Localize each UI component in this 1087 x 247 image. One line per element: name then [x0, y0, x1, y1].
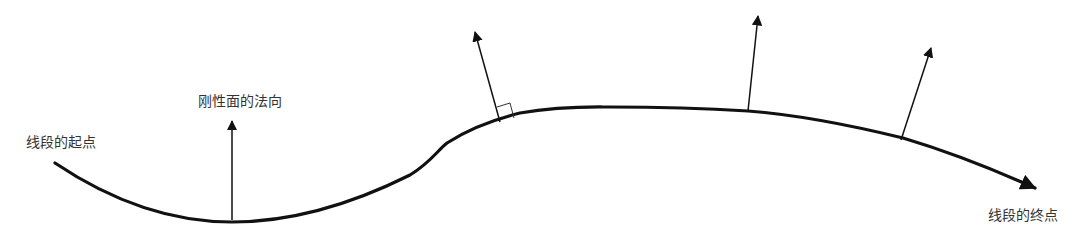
start-point-label: 线段的起点 [26, 131, 96, 151]
normal-arrow-2 [475, 32, 500, 122]
normal-arrow-4 [901, 48, 931, 140]
normal-direction-label: 刚性面的法向 [198, 90, 282, 110]
normal-arrow-3 [748, 16, 758, 111]
diagram-canvas [0, 0, 1087, 247]
segment-curve [55, 107, 1035, 222]
end-point-label: 线段的终点 [988, 204, 1058, 224]
